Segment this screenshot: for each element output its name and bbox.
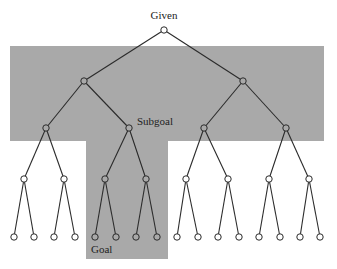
level2-node: [283, 125, 289, 131]
leaf-node: [113, 234, 119, 240]
leaf-node: [11, 234, 17, 240]
subgoal-label: Subgoal: [137, 115, 173, 127]
leaf-node: [317, 234, 323, 240]
level1-node: [81, 78, 87, 84]
leaf-node: [256, 234, 262, 240]
leaf-node: [72, 234, 78, 240]
level2-node: [201, 125, 207, 131]
level2-node: [43, 125, 49, 131]
level3-node: [225, 176, 231, 182]
goal-label: Goal: [91, 243, 112, 255]
level3-node: [61, 176, 67, 182]
leaf-node: [133, 234, 139, 240]
level3-node: [183, 176, 189, 182]
level3-node: [143, 176, 149, 182]
level3-node: [21, 176, 27, 182]
leaf-node: [195, 234, 201, 240]
level1-node: [240, 78, 246, 84]
level3-node: [306, 176, 312, 182]
shaded-region: [10, 46, 324, 259]
leaf-node: [215, 234, 221, 240]
leaf-node: [236, 234, 242, 240]
leaf-node: [277, 234, 283, 240]
subgoal-node: [126, 125, 132, 131]
leaf-node: [297, 234, 303, 240]
leaf-node: [154, 234, 160, 240]
level3-node: [266, 176, 272, 182]
leaf-node: [31, 234, 37, 240]
leaf-node: [51, 234, 57, 240]
root-node: [161, 27, 167, 33]
search-tree-diagram: Given Subgoal Goal: [0, 0, 337, 269]
level3-node: [102, 176, 108, 182]
goal-node: [92, 234, 98, 240]
leaf-node: [174, 234, 180, 240]
given-label: Given: [151, 9, 178, 21]
